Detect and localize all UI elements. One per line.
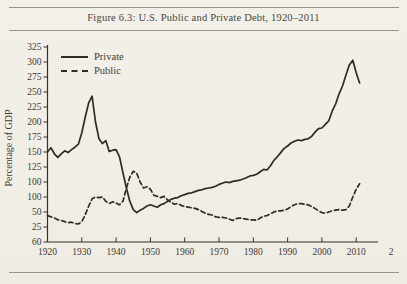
debt-line-chart: 3253002752502252001751501251001005025601… (0, 0, 407, 284)
x-tick-label: 1980 (244, 247, 263, 257)
legend: Private Public (61, 51, 124, 76)
y-tick-label: 100 (27, 192, 42, 202)
y-axis-title: Percentage of GDP (3, 109, 14, 187)
y-tick-label: 50 (32, 207, 42, 217)
x-tick-label: 2000 (312, 247, 331, 257)
legend-item-public: Public (61, 65, 124, 76)
public-dashed-line-swatch (61, 70, 88, 72)
x-tick-label: 1970 (210, 247, 229, 257)
book-page: Figure 6.3: U.S. Public and Private Debt… (0, 0, 407, 284)
x-tick-label: 1920 (38, 247, 57, 257)
y-tick-label: 225 (27, 102, 42, 112)
x-tick-label-partial: 2 (389, 247, 394, 257)
y-tick-label: 125 (27, 162, 42, 172)
series-line-private (48, 60, 360, 212)
y-tick-label: 300 (27, 57, 42, 67)
series-line-public (48, 171, 360, 224)
legend-item-private: Private (61, 51, 124, 62)
y-tick-label: 60 (32, 237, 42, 247)
legend-label-public: Public (94, 65, 121, 76)
x-tick-label: 1950 (141, 247, 160, 257)
y-tick-label: 250 (27, 87, 42, 97)
legend-label-private: Private (94, 51, 124, 62)
y-tick-label: 25 (32, 222, 42, 232)
x-tick-label: 2010 (347, 247, 366, 257)
x-tick-label: 1990 (278, 247, 297, 257)
bottom-rule (9, 272, 399, 273)
x-tick-label: 1940 (107, 247, 126, 257)
y-tick-label: 200 (27, 117, 42, 127)
x-tick-label: 1960 (175, 247, 194, 257)
y-tick-label: 275 (27, 72, 42, 82)
y-tick-label: 100 (27, 177, 42, 187)
x-tick-label: 1930 (72, 247, 91, 257)
private-solid-line-swatch (61, 56, 88, 58)
y-tick-label: 325 (27, 42, 42, 52)
y-tick-label: 175 (27, 132, 42, 142)
y-tick-label: 150 (27, 147, 42, 157)
